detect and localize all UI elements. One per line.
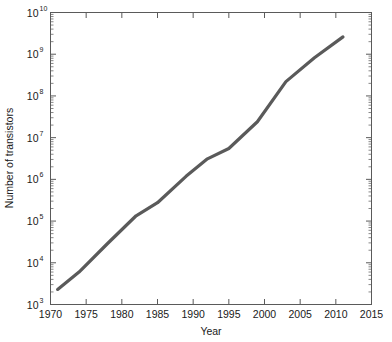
x-tick-label: 1975 (74, 308, 98, 320)
x-tick-label: 2005 (288, 308, 312, 320)
y-tick-label-exponent: 8 (40, 88, 44, 95)
y-axis-title: Number of transistors (3, 108, 15, 208)
x-tick-label: 1980 (110, 308, 134, 320)
x-axis-title: Year (200, 325, 222, 337)
y-tick-label-base: 10 (27, 257, 39, 269)
y-tick-label-exponent: 5 (40, 213, 44, 220)
y-tick-label-exponent: 4 (40, 255, 44, 262)
y-tick-label-exponent: 3 (40, 297, 44, 304)
moores-law-semilog-plot: 1970197519801985199019952000200520102015… (0, 0, 392, 342)
chart-figure: 1970197519801985199019952000200520102015… (0, 0, 392, 342)
x-tick-label: 1990 (181, 308, 205, 320)
y-tick-label-base: 10 (27, 48, 39, 60)
y-tick-label-base: 10 (27, 299, 39, 311)
y-tick-label-exponent: 10 (40, 5, 48, 12)
x-tick-label: 2000 (253, 308, 277, 320)
y-tick-label-base: 10 (27, 173, 39, 185)
x-tick-label: 1970 (39, 308, 63, 320)
y-tick-label-base: 10 (27, 7, 39, 19)
y-tick-label-base: 10 (27, 90, 39, 102)
x-tick-label: 2015 (360, 308, 384, 320)
y-tick-label-base: 10 (27, 215, 39, 227)
x-tick-label: 1995 (217, 308, 241, 320)
x-tick-label: 2010 (324, 308, 348, 320)
x-tick-label: 1985 (146, 308, 170, 320)
figure-background (0, 0, 392, 342)
y-tick-label-exponent: 6 (40, 171, 44, 178)
y-tick-label-base: 10 (27, 132, 39, 144)
y-tick-label-exponent: 9 (40, 46, 44, 53)
y-tick-label-exponent: 7 (40, 130, 44, 137)
